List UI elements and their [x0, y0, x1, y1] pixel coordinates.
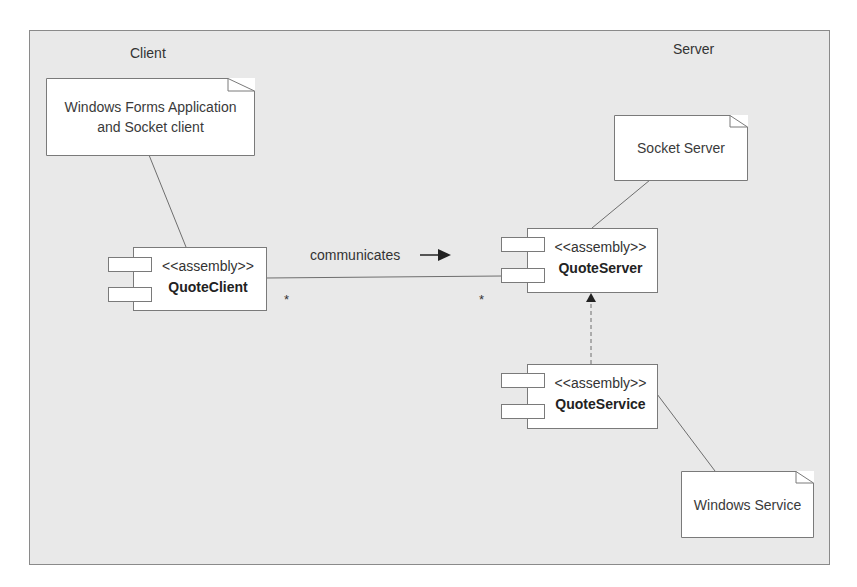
component-name: QuoteService [548, 396, 653, 412]
note-line-1: Windows Forms Application [65, 99, 237, 115]
note-line-2: and Socket client [97, 119, 204, 135]
server-region-label: Server [673, 41, 714, 57]
client-region-label: Client [130, 45, 166, 61]
note-text: Windows Service [694, 495, 801, 515]
client-note-link [149, 155, 186, 247]
association-label: communicates [310, 247, 400, 263]
note-text: Socket Server [637, 138, 725, 158]
arrowhead-icon [586, 293, 596, 302]
component-quote-server[interactable]: <<assembly>> QuoteServer [527, 228, 658, 293]
note-socket-server[interactable]: Socket Server [614, 115, 748, 181]
component-quote-client[interactable]: <<assembly>> QuoteClient [133, 247, 267, 311]
component-port-icon [108, 287, 152, 302]
component-port-icon [501, 404, 545, 419]
component-name: QuoteClient [154, 279, 262, 295]
component-quote-service[interactable]: <<assembly>> QuoteService [527, 364, 658, 429]
association-line[interactable] [266, 276, 502, 278]
direction-arrow-icon [420, 249, 451, 261]
socket-server-note-link [592, 180, 650, 228]
component-port-icon [501, 268, 545, 283]
stereotype-label: <<assembly>> [548, 375, 653, 391]
dependency-arrow[interactable] [586, 293, 596, 364]
note-windows-forms-client[interactable]: Windows Forms Application and Socket cli… [46, 78, 255, 156]
stereotype-label: <<assembly>> [154, 258, 262, 274]
multiplicity-client: * [284, 292, 289, 307]
component-name: QuoteServer [548, 260, 653, 276]
component-port-icon [108, 257, 152, 272]
note-windows-service[interactable]: Windows Service [681, 471, 814, 538]
multiplicity-server: * [479, 292, 484, 307]
component-port-icon [501, 373, 545, 388]
note-text: Windows Forms Application and Socket cli… [65, 97, 237, 137]
stereotype-label: <<assembly>> [548, 239, 653, 255]
windows-service-note-link [657, 394, 715, 471]
component-port-icon [501, 237, 545, 252]
